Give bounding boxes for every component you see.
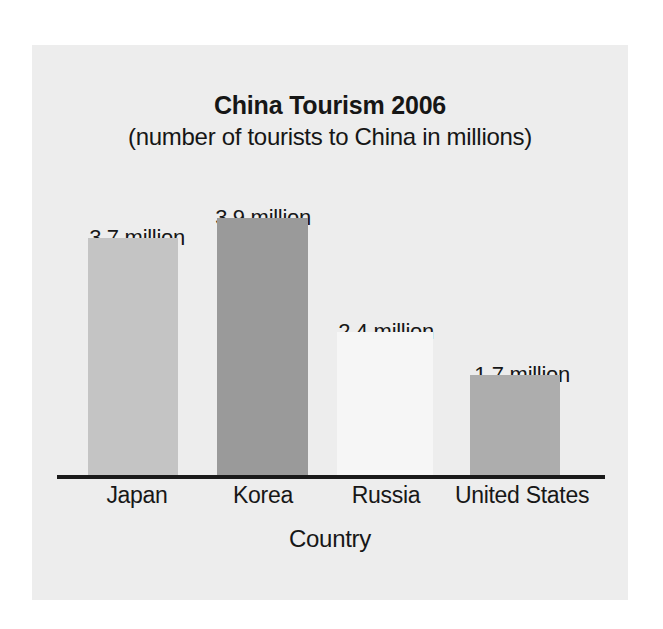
category-label-united-states: United States xyxy=(446,482,598,509)
bar-korea xyxy=(217,218,308,477)
category-label-russia: Russia xyxy=(317,482,455,509)
x-axis-line xyxy=(57,475,605,479)
bar-russia xyxy=(337,332,433,477)
chart-panel: China Tourism 2006 (number of tourists t… xyxy=(32,45,628,600)
plot-area: 3.7 million 3.9 million 2.4 million 1.7 … xyxy=(32,45,628,600)
x-axis-title: Country xyxy=(32,525,628,553)
category-label-japan: Japan xyxy=(68,482,206,509)
category-label-korea: Korea xyxy=(194,482,332,509)
bar-japan xyxy=(88,238,178,477)
bar-united-states xyxy=(470,375,560,477)
